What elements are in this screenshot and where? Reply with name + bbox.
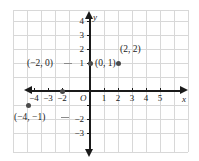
gridline-vertical [160, 10, 161, 152]
gridline-horizontal [13, 152, 188, 153]
y-tick-label: −3 [69, 129, 84, 138]
x-tick-label: 1 [97, 94, 111, 103]
y-axis-line [89, 19, 91, 150]
x-axis-arrow-right-icon [180, 86, 188, 94]
gridline-vertical [188, 10, 189, 152]
data-point [26, 103, 31, 108]
x-tick-label: 5 [153, 94, 167, 103]
x-tick-mark [104, 88, 105, 92]
y-tick-mark [87, 49, 91, 50]
y-tick-mark [87, 133, 91, 134]
gridline-horizontal [13, 35, 188, 36]
coordinate-plane-graph: y x O −4 −3 −2 1 2 3 4 5 4 3 2 1 −2 −3 (… [0, 0, 199, 161]
data-point [116, 61, 121, 66]
gridline-horizontal [13, 49, 188, 50]
point-label-0-1: (0, 1) [95, 58, 116, 68]
y-tick-mark [87, 21, 91, 22]
gridline-vertical [41, 10, 42, 152]
x-tick-label: 2 [111, 94, 125, 103]
gridline-vertical [104, 10, 105, 152]
x-tick-mark [118, 88, 119, 92]
label-leader-line [61, 117, 69, 118]
gridline-horizontal [13, 105, 188, 106]
x-tick-mark [48, 88, 49, 92]
gridline-vertical [118, 10, 119, 152]
gridline-vertical [174, 10, 175, 152]
point-label-2-2: (2, 2) [120, 44, 141, 54]
gridline-horizontal [13, 77, 188, 78]
x-tick-mark [132, 88, 133, 92]
origin-label: O [80, 94, 87, 103]
gridline-vertical [132, 10, 133, 152]
y-tick-label: 4 [69, 17, 84, 26]
data-point [88, 61, 93, 66]
x-axis-line [31, 90, 181, 92]
y-tick-mark [87, 119, 91, 120]
gridline-vertical [13, 10, 14, 152]
point-label-neg4-neg1: (−4, −1) [14, 112, 45, 122]
y-tick-mark [87, 105, 91, 106]
y-tick-label: −2 [69, 115, 84, 124]
gridline-horizontal [13, 21, 188, 22]
x-tick-label: −4 [27, 94, 41, 103]
x-tick-mark [34, 88, 35, 92]
x-tick-label: 3 [125, 94, 139, 103]
gridline-vertical [27, 10, 28, 152]
gridline-horizontal [13, 10, 188, 11]
x-tick-label: −2 [55, 94, 69, 103]
y-axis-label: y [93, 13, 97, 22]
x-tick-label: 4 [139, 94, 153, 103]
gridline-horizontal [13, 133, 188, 134]
y-axis-arrow-down-icon [85, 149, 93, 157]
gridline-vertical [146, 10, 147, 152]
label-leader-line [64, 63, 72, 64]
data-point [60, 89, 65, 94]
y-tick-label: 3 [69, 31, 84, 40]
y-tick-label: 2 [69, 45, 84, 54]
point-label-neg2-0: (−2, 0) [27, 58, 53, 68]
y-tick-mark [87, 35, 91, 36]
x-tick-mark [160, 88, 161, 92]
gridline-vertical [55, 10, 56, 152]
x-tick-mark [146, 88, 147, 92]
x-tick-label: −3 [41, 94, 55, 103]
x-axis-label: x [182, 95, 186, 104]
